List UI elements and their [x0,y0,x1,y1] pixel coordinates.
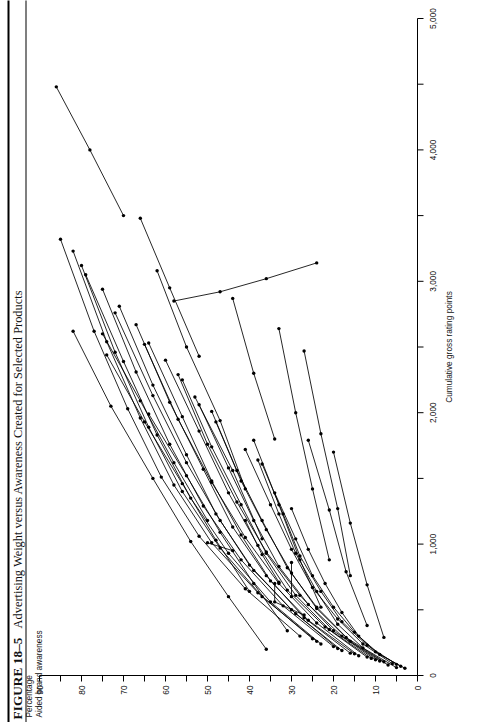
data-point [79,263,82,266]
data-point [71,249,74,252]
figure-container: FIGURE 18–5 Advertising Weight versus Aw… [0,0,485,722]
data-point [210,409,213,412]
y-axis-label-line2: Aided brand awareness [33,630,43,717]
data-point [302,349,305,352]
data-point [58,237,61,240]
data-point [193,395,196,398]
data-point [100,287,103,290]
svg-text:3,000: 3,000 [427,270,437,291]
svg-text:20: 20 [328,685,338,695]
data-point [226,594,229,597]
data-point [277,326,280,329]
data-point [176,372,179,375]
svg-text:60: 60 [160,685,170,695]
svg-text:4,000: 4,000 [427,139,437,160]
figure-page: FIGURE 18–5 Advertising Weight versus Aw… [0,0,485,722]
data-point [331,450,334,453]
plot-area: 01,0002,0003,0004,0005,00001020304050607… [25,0,485,722]
series-line [333,452,383,637]
x-axis-label: Cumulative gross rating points [443,291,453,403]
series-line [232,298,274,439]
data-point [113,311,116,314]
y-axis-label-line1: Percentage [23,630,33,717]
data-point [71,329,74,332]
data-point [306,438,309,441]
series-line [102,333,207,520]
svg-text:0: 0 [412,685,422,690]
series-line [245,449,392,663]
data-point [134,322,137,325]
data-point [226,551,229,554]
data-point [189,539,192,542]
svg-text:50: 50 [202,685,212,695]
data-point [252,438,255,441]
y-axis-label: Percentage Aided brand awareness [23,630,43,717]
svg-text:1,000: 1,000 [427,533,437,554]
series-line [215,421,383,661]
svg-text:70: 70 [118,685,128,695]
figure-title: Advertising Weight versus Awareness Crea… [10,290,25,628]
chart-series-group [54,85,406,670]
svg-text:10: 10 [370,685,380,695]
series-line [274,492,400,665]
data-point [117,304,120,307]
series-line [291,508,404,668]
data-point [289,560,292,563]
series-line [115,312,342,650]
series-line [199,404,380,660]
series-line [304,350,350,575]
series-line [262,463,396,663]
chart-tick-labels: 01,0002,0003,0004,0005,00001020304050607… [34,7,437,694]
svg-text:0: 0 [427,672,437,677]
chart-axes [39,18,423,681]
data-point [138,216,141,219]
series-line [257,460,396,668]
data-point [155,269,158,272]
data-point [289,506,292,509]
data-point [163,358,166,361]
series-line [148,414,287,631]
svg-text:2,000: 2,000 [427,401,437,422]
data-point [197,534,200,537]
data-point [243,447,246,450]
series-line [85,274,320,643]
data-point [336,622,339,625]
line-chart: 01,0002,0003,0004,0005,00001020304050607… [25,0,485,722]
data-point [273,600,276,603]
data-point [147,341,150,344]
series-line [102,289,333,646]
series-line [173,262,316,300]
series-line [136,324,350,653]
svg-text:5,000: 5,000 [427,7,437,28]
series-line [278,328,328,559]
data-point [256,458,259,461]
svg-text:80: 80 [76,685,86,695]
data-point [231,296,234,299]
svg-text:30: 30 [286,685,296,695]
data-point [54,85,57,88]
svg-text:40: 40 [244,685,254,695]
